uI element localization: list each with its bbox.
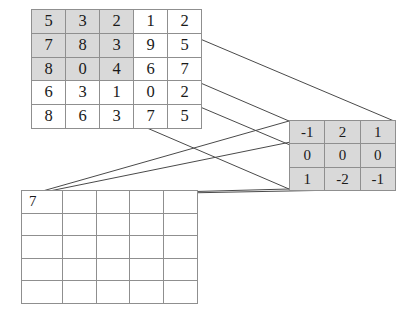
matrix-cell: 3: [100, 33, 134, 57]
matrix-cell: 6: [32, 81, 66, 105]
matrix-cell: [130, 213, 164, 236]
matrix-cell: 3: [66, 81, 100, 105]
matrix-row: 63102: [32, 81, 202, 105]
matrix-row: 53212: [32, 10, 202, 34]
input-feature-map: 5321278395804676310286375: [31, 9, 202, 129]
matrix-cell: 3: [66, 10, 100, 34]
matrix-cell: 9: [134, 33, 168, 57]
matrix-cell: 8: [66, 33, 100, 57]
matrix-cell: 0: [134, 81, 168, 105]
matrix-cell: [130, 258, 164, 281]
matrix-cell: 2: [168, 10, 202, 34]
matrix-cell: [22, 281, 63, 304]
matrix-cell: 7: [168, 57, 202, 81]
matrix-row: 78395: [32, 33, 202, 57]
matrix-cell: 2: [325, 121, 360, 144]
matrix-cell: [62, 236, 96, 259]
matrix-cell: 5: [168, 33, 202, 57]
kernel-tl-to-output-cell: [25, 121, 289, 196]
matrix-cell: 0: [290, 144, 325, 167]
matrix-cell: 1: [100, 81, 134, 105]
matrix-cell: [164, 281, 198, 304]
matrix-cell: [164, 213, 198, 236]
matrix-row: [22, 258, 198, 281]
matrix-cell: 6: [66, 105, 100, 129]
matrix-row: 7: [22, 191, 198, 214]
matrix-cell: [62, 191, 96, 214]
matrix-cell: -1: [290, 121, 325, 144]
matrix-row: -121: [290, 121, 396, 144]
matrix-cell: [164, 258, 198, 281]
matrix-row: [22, 236, 198, 259]
matrix-cell: [164, 236, 198, 259]
matrix-cell: [96, 281, 130, 304]
matrix-cell: 1: [134, 10, 168, 34]
matrix-cell: [96, 236, 130, 259]
matrix-cell: [22, 236, 63, 259]
matrix-cell: 8: [32, 57, 66, 81]
matrix-cell: [22, 213, 63, 236]
matrix-cell: 3: [100, 105, 134, 129]
matrix-cell: 0: [360, 144, 395, 167]
matrix-cell: 0: [66, 57, 100, 81]
matrix-cell: [22, 258, 63, 281]
matrix-row: [22, 281, 198, 304]
matrix-cell: [164, 191, 198, 214]
matrix-cell: 0: [325, 144, 360, 167]
matrix-cell: 5: [32, 10, 66, 34]
matrix-cell: 7: [134, 105, 168, 129]
matrix-cell: 2: [100, 10, 134, 34]
matrix-cell: [130, 281, 164, 304]
matrix-cell: 1: [360, 121, 395, 144]
matrix-row: 86375: [32, 105, 202, 129]
matrix-cell: 7: [22, 191, 63, 214]
matrix-cell: 2: [168, 81, 202, 105]
matrix-cell: [62, 281, 96, 304]
matrix-cell: [62, 213, 96, 236]
convolution-kernel: -1210001-2-1: [289, 120, 396, 191]
matrix-cell: [130, 191, 164, 214]
matrix-cell: 1: [290, 167, 325, 190]
output-feature-map: 7: [21, 190, 198, 304]
matrix-cell: 4: [100, 57, 134, 81]
matrix-row: 1-2-1: [290, 167, 396, 190]
matrix-row: 80467: [32, 57, 202, 81]
matrix-cell: [62, 258, 96, 281]
matrix-cell: 7: [32, 33, 66, 57]
matrix-cell: -1: [360, 167, 395, 190]
matrix-cell: [130, 236, 164, 259]
matrix-cell: [96, 191, 130, 214]
matrix-cell: 6: [134, 57, 168, 81]
diagram-canvas: 5321278395804676310286375 -1210001-2-1 7: [0, 0, 411, 321]
matrix-row: [22, 213, 198, 236]
matrix-row: 000: [290, 144, 396, 167]
matrix-cell: -2: [325, 167, 360, 190]
matrix-cell: [96, 258, 130, 281]
matrix-cell: [96, 213, 130, 236]
matrix-cell: 5: [168, 105, 202, 129]
matrix-cell: 8: [32, 105, 66, 129]
